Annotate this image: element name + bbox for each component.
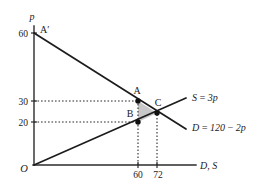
x-axis-label: D, S — [199, 160, 217, 171]
demand-curve-label: D = 120 − 2p — [191, 122, 246, 133]
point-label-a-prime: A′ — [40, 24, 49, 35]
y-axis-label: p — [29, 11, 35, 22]
supply-curve-label: S = 3p — [192, 92, 218, 103]
point-label-a: A — [133, 85, 141, 96]
ytick-label-20: 20 — [19, 118, 29, 128]
figure-container: p D, S O 60 30 20 60 72 A′ A B C S = 3p … — [0, 0, 269, 190]
supply-curve — [34, 98, 186, 165]
supply-demand-chart: p D, S O 60 30 20 60 72 A′ A B C S = 3p … — [0, 0, 269, 190]
ytick-label-30: 30 — [19, 97, 29, 107]
point-marker-b — [135, 119, 140, 124]
xtick-label-72: 72 — [153, 170, 163, 180]
demand-curve — [34, 33, 186, 129]
point-marker-c — [154, 110, 159, 115]
point-marker-a — [135, 98, 140, 103]
origin-label: O — [20, 163, 28, 174]
xtick-label-60: 60 — [133, 170, 143, 180]
point-label-b: B — [127, 108, 134, 119]
point-label-c: C — [155, 97, 162, 108]
ytick-label-60: 60 — [19, 29, 29, 39]
